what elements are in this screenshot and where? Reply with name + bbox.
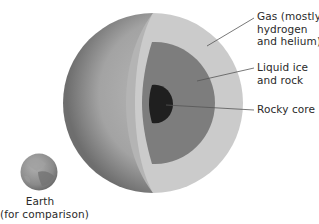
gas-layer-label: Gas (mostly hydrogen and helium): [257, 10, 319, 48]
planet-interior-diagram: Gas (mostly hydrogen and helium) Liquid …: [0, 0, 319, 224]
gas-label-line-3: and helium): [257, 35, 319, 48]
mantle-layer-label: Liquid ice and rock: [257, 61, 308, 86]
core-label-line-1: Rocky core: [257, 103, 315, 116]
gas-leader-line: [207, 18, 254, 46]
mantle-label-line-2: and rock: [257, 74, 308, 87]
earth-globe: [21, 154, 58, 191]
gas-label-line-2: hydrogen: [257, 23, 319, 36]
earth-label: Earth (for comparison): [0, 195, 80, 220]
earth-label-line-2: (for comparison): [0, 208, 80, 221]
earth-label-line-1: Earth: [0, 195, 80, 208]
gas-label-line-1: Gas (mostly: [257, 10, 319, 23]
mantle-label-line-1: Liquid ice: [257, 61, 308, 74]
core-label: Rocky core: [257, 103, 315, 116]
